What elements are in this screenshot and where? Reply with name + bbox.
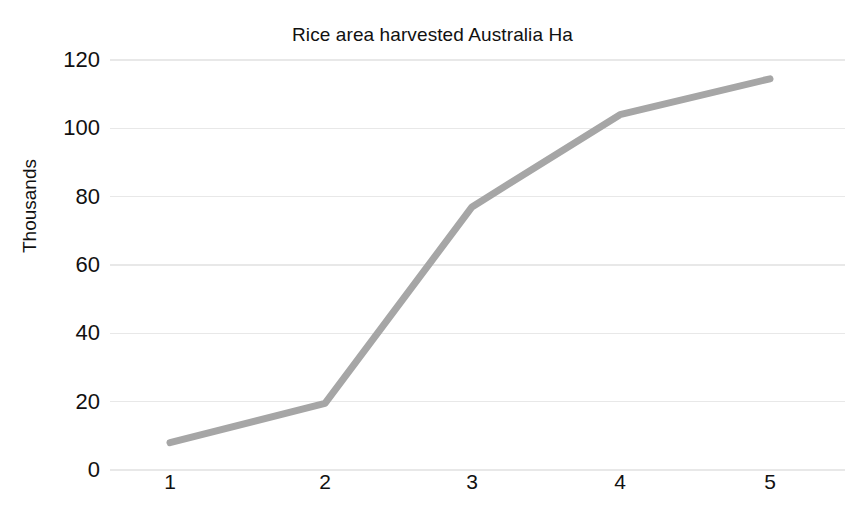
y-tick-label: 20 (10, 391, 100, 413)
x-tick-label: 3 (442, 470, 502, 493)
chart-title: Rice area harvested Australia Ha (0, 24, 865, 46)
y-tick-label: 100 (10, 117, 100, 139)
x-tick-label: 5 (740, 470, 800, 493)
x-axis-tick-labels: 12345 (110, 470, 845, 504)
y-tick-label: 60 (10, 254, 100, 276)
plot-area (110, 60, 845, 470)
line-chart: Rice area harvested Australia Ha Thousan… (0, 0, 865, 518)
x-tick-label: 4 (590, 470, 650, 493)
series-line (110, 60, 845, 470)
x-tick-label: 2 (295, 470, 355, 493)
y-tick-label: 0 (10, 459, 100, 481)
y-axis-tick-labels: 120100806040200 (0, 60, 100, 470)
y-tick-label: 80 (10, 186, 100, 208)
clipped-bottom-text (0, 506, 865, 518)
x-tick-label: 1 (140, 470, 200, 493)
y-tick-label: 40 (10, 322, 100, 344)
y-tick-label: 120 (10, 49, 100, 71)
